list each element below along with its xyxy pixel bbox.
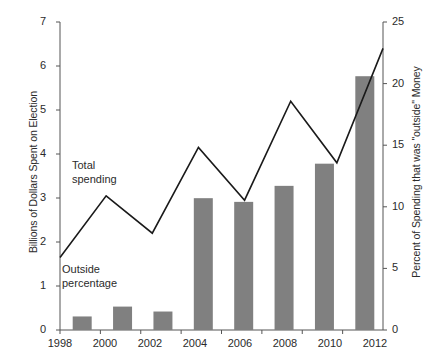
x-tick-2012: 2012 bbox=[354, 337, 396, 349]
y-tick-left-7: 7 bbox=[24, 15, 46, 27]
y-tick-right-25: 25 bbox=[392, 15, 416, 27]
y-tick-left-5: 5 bbox=[24, 103, 46, 115]
plot-area bbox=[0, 0, 425, 361]
y-tick-left-3: 3 bbox=[24, 191, 46, 203]
x-tick-2008: 2008 bbox=[264, 337, 306, 349]
x-tick-2002: 2002 bbox=[129, 337, 171, 349]
y-tick-right-0: 0 bbox=[392, 323, 416, 335]
x-tick-2000: 2000 bbox=[84, 337, 126, 349]
y-tick-right-5: 5 bbox=[392, 261, 416, 273]
y-tick-left-2: 2 bbox=[24, 235, 46, 247]
y-tick-left-0: 0 bbox=[24, 323, 46, 335]
x-tick-2004: 2004 bbox=[174, 337, 216, 349]
bar-series-annotation-line2: percentage bbox=[62, 276, 117, 290]
y-axis-left-title: Billions of Dollars Spent on Election bbox=[27, 42, 39, 302]
y-tick-right-20: 20 bbox=[392, 77, 416, 89]
y-tick-right-15: 15 bbox=[392, 138, 416, 150]
y-tick-left-1: 1 bbox=[24, 279, 46, 291]
x-tick-1998: 1998 bbox=[39, 337, 81, 349]
chart-figure: Billions of Dollars Spent on Election Pe… bbox=[0, 0, 425, 361]
x-tick-2010: 2010 bbox=[309, 337, 351, 349]
line-series bbox=[60, 48, 383, 257]
bar-series bbox=[73, 76, 375, 330]
bar-series-annotation-line1: Outside bbox=[62, 262, 100, 276]
line-series-annotation-line2: spending bbox=[72, 172, 117, 186]
line-series-annotation-line1: Total bbox=[72, 158, 95, 172]
x-tick-2006: 2006 bbox=[219, 337, 261, 349]
y-tick-left-6: 6 bbox=[24, 59, 46, 71]
y-tick-left-4: 4 bbox=[24, 147, 46, 159]
y-tick-right-10: 10 bbox=[392, 200, 416, 212]
